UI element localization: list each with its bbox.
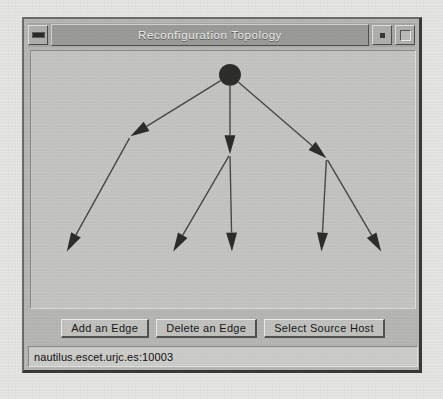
window-title: Reconfiguration Topology: [51, 24, 369, 46]
restore-icon: [380, 33, 385, 38]
action-button-row: Add an Edge Delete an Edge Select Source…: [30, 313, 416, 343]
edge-layer: [76, 81, 372, 236]
topology-canvas[interactable]: [30, 50, 416, 309]
topology-node[interactable]: [173, 232, 187, 251]
page-root: Reconfiguration Topology Add an Edge Del…: [0, 0, 443, 399]
topology-edge[interactable]: [230, 156, 232, 232]
topology-node[interactable]: [226, 232, 237, 251]
node-layer: [67, 64, 381, 252]
status-bar: nautilus.escet.urjc.es:10003: [28, 346, 418, 367]
restore-button[interactable]: [372, 25, 392, 45]
topology-edge[interactable]: [183, 156, 229, 235]
topology-node[interactable]: [67, 232, 81, 251]
topology-edge[interactable]: [238, 82, 312, 146]
application-window: Reconfiguration Topology Add an Edge Del…: [22, 17, 422, 373]
topology-root-node[interactable]: [219, 64, 241, 86]
topology-node[interactable]: [224, 135, 235, 154]
topology-edge[interactable]: [322, 160, 326, 232]
minimize-icon: [32, 32, 45, 38]
topology-edge[interactable]: [147, 81, 221, 127]
select-source-host-button[interactable]: Select Source Host: [264, 319, 385, 338]
topology-node[interactable]: [130, 122, 149, 137]
maximize-button[interactable]: [395, 25, 415, 45]
title-bar[interactable]: Reconfiguration Topology: [28, 23, 415, 47]
topology-node[interactable]: [317, 232, 328, 251]
maximize-icon: [400, 30, 411, 41]
add-edge-button[interactable]: Add an Edge: [61, 319, 149, 338]
status-text: nautilus.escet.urjc.es:10003: [34, 351, 173, 363]
topology-node[interactable]: [367, 232, 381, 251]
window-controls: [372, 25, 415, 45]
topology-edge[interactable]: [76, 138, 130, 235]
topology-edge[interactable]: [327, 160, 371, 235]
delete-edge-button[interactable]: Delete an Edge: [156, 319, 257, 338]
minimize-button[interactable]: [28, 25, 48, 45]
topology-graph[interactable]: [31, 51, 415, 308]
